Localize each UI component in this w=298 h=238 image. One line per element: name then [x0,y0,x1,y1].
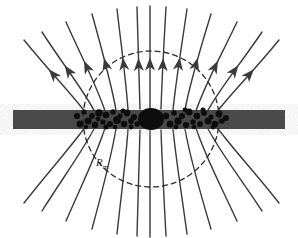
disk-clump [74,113,80,119]
field-line [196,128,237,221]
field-line-arrowhead [79,59,94,75]
magnetosphere-figure: Rm [0,0,298,238]
disk-clump [121,121,127,127]
field-line [137,7,140,109]
disk-clump [216,111,223,118]
disk-clump [129,125,134,130]
disk-clump [89,113,95,119]
field-line [173,129,187,234]
disk-clump [100,119,105,124]
magnetospheric-radius-label: Rm [96,156,108,171]
field-line-arrowheads [45,56,258,82]
disk-clump [104,125,109,130]
disk-clump [84,125,89,130]
central-star [138,108,164,130]
field-line [137,130,140,236]
disk-clump [201,108,206,113]
field-line [92,129,116,229]
disk-clump [183,122,189,128]
disk-clump [131,114,137,120]
disk-clump [92,122,98,128]
label-subscript: m [103,163,108,171]
central-star-group [138,108,164,130]
disk-clump [113,125,118,130]
disk-clump [211,125,216,130]
field-lines-lower [24,126,279,237]
field-line-arrowhead [208,59,223,75]
disk-clump [121,109,126,114]
field-lines-upper [24,6,279,113]
disk-clump [208,114,213,119]
disk-clump [81,109,86,114]
field-line [42,127,95,211]
disk-clump [174,125,179,130]
disk-clump [190,119,195,124]
field-line [66,128,105,221]
figure-canvas [0,0,298,238]
disk-clump [103,112,110,119]
disk-clump [183,108,188,113]
field-line [161,7,166,109]
field-line [216,126,279,203]
disk-clump [117,113,122,118]
disk-clump [77,121,84,128]
disk-clump [223,115,229,121]
field-line [117,129,128,234]
field-line [161,130,166,236]
disk-clump [192,125,197,130]
disk-clump [194,113,201,120]
field-line-arrowhead [99,57,112,72]
disk-clump [167,121,174,128]
disk-clump [179,113,185,119]
disk-clump [96,117,101,122]
field-line [216,40,279,113]
disk-clump [95,109,103,117]
disk-clump [110,109,116,115]
disk-clump [171,110,177,116]
disk-clump [197,121,203,127]
label-base: R [96,156,103,168]
field-line [185,129,211,229]
field-line-arrowhead [61,63,77,79]
field-line-arrowhead [227,62,243,78]
